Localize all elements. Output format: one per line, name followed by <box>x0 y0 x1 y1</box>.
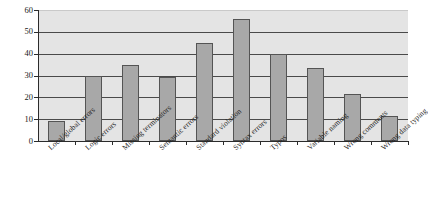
y-tick-label-10: 10 <box>5 115 33 124</box>
x-tick-mark <box>75 141 76 145</box>
bar <box>159 77 176 141</box>
x-tick-mark <box>186 141 187 145</box>
clipped-chart-title <box>0 0 413 2</box>
y-tick-mark-0 <box>34 141 38 142</box>
y-tick-label-60: 60 <box>5 6 33 15</box>
y-tick-mark-10 <box>34 119 38 120</box>
x-tick-mark <box>149 141 150 145</box>
bar <box>344 94 361 141</box>
gridline-40 <box>38 54 408 55</box>
gridline-60 <box>38 10 408 11</box>
y-tick-mark-60 <box>34 10 38 11</box>
bar <box>85 76 102 142</box>
y-tick-mark-40 <box>34 54 38 55</box>
bar <box>270 54 287 141</box>
bar <box>233 19 250 141</box>
gridline-50 <box>38 32 408 33</box>
x-tick-mark <box>223 141 224 145</box>
x-tick-mark <box>297 141 298 145</box>
plot-area <box>38 10 408 141</box>
bar <box>307 68 324 141</box>
y-tick-label-20: 20 <box>5 93 33 102</box>
bar <box>48 121 65 141</box>
y-tick-label-0: 0 <box>5 137 33 146</box>
y-tick-label-50: 50 <box>5 27 33 36</box>
y-axis-tick-labels: 0102030405060 <box>0 0 33 207</box>
x-tick-mark <box>371 141 372 145</box>
bar <box>122 65 139 141</box>
y-tick-mark-30 <box>34 76 38 77</box>
y-tick-label-30: 30 <box>5 71 33 80</box>
y-axis-line <box>38 10 39 142</box>
x-tick-mark <box>112 141 113 145</box>
y-tick-mark-20 <box>34 97 38 98</box>
x-tick-mark <box>408 141 409 145</box>
y-tick-mark-50 <box>34 32 38 33</box>
x-tick-mark <box>260 141 261 145</box>
y-tick-label-40: 40 <box>5 49 33 58</box>
bar <box>381 116 398 141</box>
x-tick-mark <box>334 141 335 145</box>
bar <box>196 43 213 141</box>
